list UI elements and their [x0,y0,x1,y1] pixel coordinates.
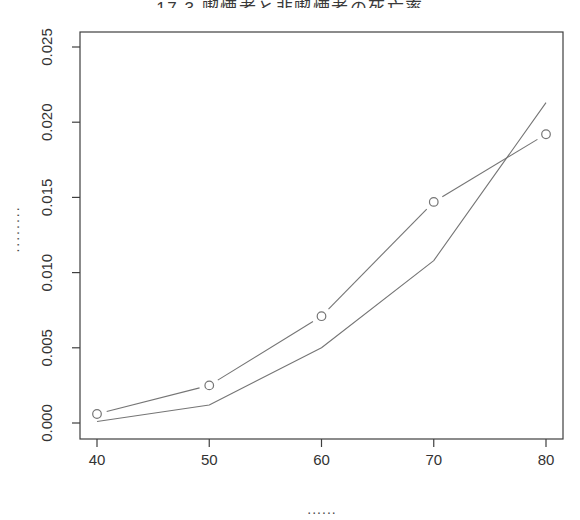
series-markers-segment [218,321,313,380]
plot-border [80,32,563,439]
x-tick-label: 70 [425,451,442,468]
y-tick-label: 0.000 [38,404,55,442]
series-markers-segment [329,209,427,309]
x-tick-label: 60 [313,451,330,468]
series-plain-line [97,103,546,422]
x-axis-label: ...... [307,501,336,517]
plot-svg: 40506070800.0000.0050.0100.0150.0200.025 [0,0,580,520]
x-tick-label: 40 [89,451,106,468]
y-tick-label: 0.020 [38,103,55,141]
data-point-marker [205,381,214,390]
y-tick-label: 0.015 [38,179,55,217]
y-tick-label: 0.005 [38,329,55,367]
data-point-marker [542,130,551,139]
x-tick-label: 50 [201,451,218,468]
data-point-marker [93,410,102,419]
y-axis-label: ........ [6,205,22,252]
x-tick-label: 80 [538,451,555,468]
series-markers-segment [442,139,537,196]
y-tick-label: 0.025 [38,28,55,66]
chart-figure: 17.3 喫煙者と非喫煙者の死亡率 40506070800.0000.0050.… [0,0,580,520]
data-point-marker [317,312,326,321]
data-point-marker [429,198,438,207]
y-tick-label: 0.010 [38,254,55,292]
